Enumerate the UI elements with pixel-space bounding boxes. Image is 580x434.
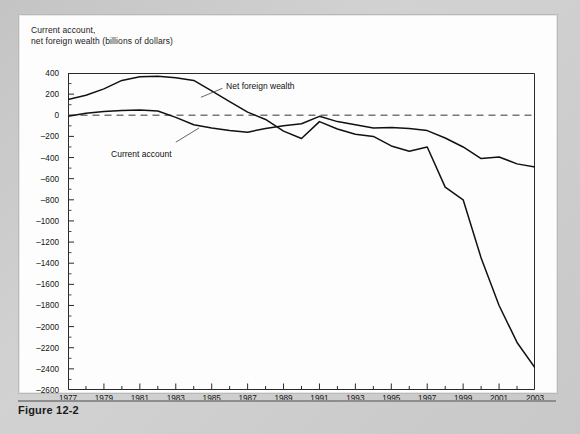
- y-axis-tick-label: 0: [19, 111, 59, 120]
- y-axis-tick-label: –1400: [19, 259, 59, 268]
- axis-title: Current account,net foreign wealth (bill…: [31, 25, 173, 47]
- series-label-net-foreign-wealth: Net foreign wealth: [226, 81, 295, 91]
- series-label-current-account: Current account: [111, 149, 171, 159]
- y-axis-tick-label: –2200: [19, 343, 59, 352]
- page-background: Current account,net foreign wealth (bill…: [0, 0, 580, 434]
- line-chart: [68, 73, 535, 390]
- y-axis-tick-label: –2000: [19, 322, 59, 331]
- figure-caption: Figure 12-2: [18, 404, 79, 416]
- caption-divider: [18, 400, 556, 402]
- y-axis-tick-label: 400: [19, 69, 59, 78]
- chart-series: [68, 76, 535, 368]
- y-axis-tick-label: –1200: [19, 238, 59, 247]
- y-axis-tick-label: –400: [19, 153, 59, 162]
- plot-canvas: [68, 73, 535, 390]
- y-axis-tick-label: –600: [19, 174, 59, 183]
- figure-panel-inner: Current account,net foreign wealth (bill…: [19, 15, 557, 393]
- y-axis-tick-label: –2600: [19, 386, 59, 395]
- y-axis-tick-label: 200: [19, 90, 59, 99]
- axis-title-line2: net foreign wealth (billions of dollars): [31, 36, 173, 46]
- figure-panel: Current account,net foreign wealth (bill…: [18, 14, 558, 394]
- y-axis-tick-label: –1600: [19, 280, 59, 289]
- y-axis-tick-label: –200: [19, 132, 59, 141]
- y-axis-tick-label: –2400: [19, 364, 59, 373]
- chart-axes: [69, 73, 535, 390]
- y-axis-tick-label: –1800: [19, 301, 59, 310]
- plot-area: [68, 73, 535, 390]
- y-axis-tick-label: –1000: [19, 216, 59, 225]
- chart-ticks: [68, 73, 535, 390]
- y-axis-tick-label: –800: [19, 195, 59, 204]
- axis-title-line1: Current account,: [31, 25, 95, 35]
